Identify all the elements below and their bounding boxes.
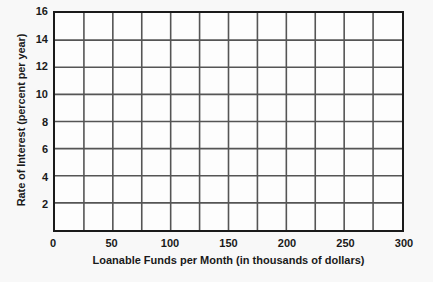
y-tick-label: 10 [7,87,53,101]
x-tick-label: 250 [316,236,376,250]
y-tick-label: 2 [7,197,53,211]
y-tick-label: 14 [7,32,53,46]
plot-area [53,11,404,232]
y-tick-label: 4 [7,170,53,184]
chart-figure: Rate of Interest (percent per year) 2468… [0,0,433,282]
y-tick-label: 8 [7,115,53,129]
y-tick-label: 12 [7,59,53,73]
y-axis-tick-labels: 246810121416 [0,11,53,232]
x-tick-label: 100 [140,236,200,250]
x-tick-label: 200 [257,236,317,250]
x-tick-label: 50 [82,236,142,250]
x-tick-label: 150 [199,236,259,250]
x-axis-title: Loanable Funds per Month (in thousands o… [53,254,404,266]
x-tick-label: 300 [374,236,433,250]
y-tick-label: 16 [7,4,53,18]
gridlines [55,13,402,230]
x-tick-label: 0 [23,236,83,250]
y-tick-label: 6 [7,142,53,156]
x-axis-tick-labels: 050100150200250300 [53,236,404,252]
